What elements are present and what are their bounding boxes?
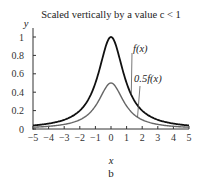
labels: f(x)0.5f(x) [131, 43, 162, 117]
x-tick-label: 2 [140, 132, 145, 143]
line-chart: 00.20.40.60.81−5−4−3−2−1012345yxb f(x)0.… [0, 0, 204, 183]
subfigure-label: b [108, 167, 114, 179]
half-f-curve [33, 83, 189, 127]
y-tick-label: 0.2 [12, 105, 25, 116]
y-tick-label: 0.6 [12, 68, 25, 79]
x-axis-label: x [108, 155, 114, 166]
x-tick-label: −5 [28, 132, 39, 143]
axes: 00.20.40.60.81−5−4−3−2−1012345yxb [12, 18, 192, 179]
x-tick-label: 4 [171, 132, 176, 143]
x-tick-label: 5 [187, 132, 192, 143]
f-curve [33, 37, 189, 125]
x-tick-label: 3 [155, 132, 160, 143]
f-leader-line [131, 53, 132, 94]
y-tick-label: 0.4 [12, 87, 25, 98]
y-axis-label: y [23, 18, 29, 29]
x-tick-label: 0 [109, 132, 114, 143]
x-tick-label: −1 [90, 132, 101, 143]
x-tick-label: −3 [59, 132, 70, 143]
f-label: f(x) [133, 43, 148, 55]
half-f-leader-line [138, 86, 140, 117]
y-tick-label: 1 [19, 32, 24, 43]
curves [33, 37, 189, 127]
y-tick-label: 0.8 [12, 50, 25, 61]
half-f-label: 0.5f(x) [134, 73, 162, 85]
y-tick-label: 0 [19, 124, 24, 135]
x-tick-label: 1 [124, 132, 129, 143]
x-tick-label: −4 [43, 132, 54, 143]
x-tick-label: −2 [74, 132, 85, 143]
